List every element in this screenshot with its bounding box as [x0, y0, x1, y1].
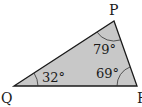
vertex-label-p: P [109, 2, 118, 18]
triangle-diagram: P Q R 79° 32° 69° [0, 0, 142, 107]
angle-label-q: 32° [42, 70, 65, 85]
angle-label-p: 79° [93, 42, 116, 57]
vertex-label-q: Q [1, 90, 12, 106]
angle-label-r: 69° [96, 66, 119, 81]
vertex-label-r: R [137, 90, 142, 106]
